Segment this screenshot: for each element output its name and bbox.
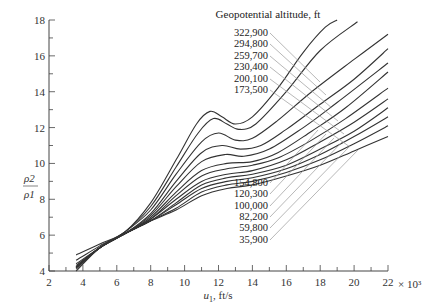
- y-label-denominator: ρ1: [23, 188, 35, 200]
- x-tick-label: 22: [383, 276, 394, 288]
- altitude-label-top: 322,900: [234, 27, 268, 38]
- y-tick-label: 14: [34, 86, 46, 98]
- x-tick-label: 8: [148, 276, 154, 288]
- leader-line: [270, 134, 326, 194]
- curve-120300: [76, 99, 388, 268]
- altitude-label-top: 200,100: [234, 73, 268, 84]
- x-tick-label: 12: [213, 276, 224, 288]
- x-tick-label: 10: [179, 276, 191, 288]
- leader-line: [270, 146, 350, 228]
- altitude-label-bottom: 82,200: [239, 211, 268, 222]
- x-tick-label: 6: [114, 276, 120, 288]
- curve-294800: [76, 22, 357, 260]
- curve-173500: [76, 72, 388, 267]
- altitude-labels: 322,900294,800259,700230,400200,100173,5…: [234, 27, 268, 245]
- altitude-label-top: 259,700: [234, 50, 268, 61]
- y-tick-label: 4: [40, 265, 46, 277]
- altitude-label-top: 230,400: [234, 61, 268, 72]
- x-multiplier: × 10³: [398, 278, 422, 290]
- curve-259700: [76, 34, 388, 263]
- leader-line: [270, 142, 342, 217]
- y-ticks: 4681012141618: [34, 14, 55, 277]
- curve-154800: [76, 88, 388, 267]
- x-axis-label: u1, ft/s: [203, 289, 232, 304]
- altitude-label-bottom: 59,800: [239, 222, 268, 233]
- x-tick-label: 20: [349, 276, 361, 288]
- x-ticks: 246810121416182022: [46, 265, 393, 288]
- y-tick-label: 16: [34, 50, 46, 62]
- x-tick-label: 18: [315, 276, 327, 288]
- curves: [76, 20, 388, 271]
- leader-line: [270, 130, 318, 183]
- altitude-label-top: 173,500: [234, 84, 268, 95]
- x-tick-label: 2: [46, 276, 52, 288]
- altitude-label-top: 294,800: [234, 38, 268, 49]
- altitude-label-bottom: 154,800: [234, 177, 268, 188]
- leader-line: [270, 150, 358, 240]
- x-tick-label: 16: [281, 276, 293, 288]
- curve-200100: [76, 63, 388, 267]
- y-tick-label: 10: [34, 157, 46, 169]
- y-tick-label: 8: [40, 193, 46, 205]
- curve-35900: [76, 137, 388, 272]
- x-tick-label: 14: [247, 276, 259, 288]
- chart-canvas: 4681012141618 246810121416182022 322,900…: [0, 0, 438, 307]
- legend-title: Geopotential altitude, ft: [216, 8, 321, 20]
- altitude-label-bottom: 35,900: [239, 234, 268, 245]
- y-tick-label: 6: [40, 229, 46, 241]
- y-tick-label: 12: [34, 122, 45, 134]
- x-tick-label: 4: [80, 276, 86, 288]
- altitude-label-bottom: 120,300: [234, 188, 268, 199]
- y-tick-label: 18: [34, 14, 46, 26]
- y-label-numerator: ρ2: [23, 172, 35, 184]
- altitude-label-bottom: 100,000: [234, 200, 268, 211]
